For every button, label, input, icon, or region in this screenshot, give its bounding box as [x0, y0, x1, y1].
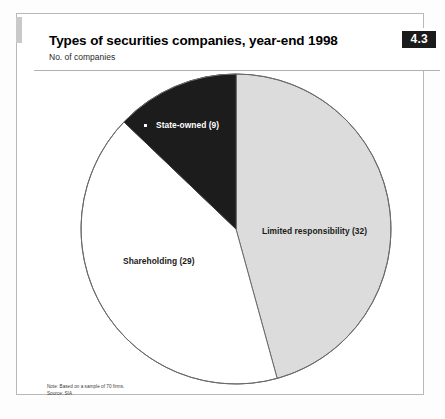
- pie-label-state-owned: State-owned (9): [156, 120, 219, 130]
- footnote-note: Note: Based on a sample of 70 firms.: [47, 383, 124, 390]
- figure-title: Types of securities companies, year-end …: [49, 33, 338, 48]
- figure-header: Types of securities companies, year-end …: [34, 28, 440, 71]
- figure-subtitle: No. of companies: [49, 52, 115, 62]
- figure-footnote: Note: Based on a sample of 70 firms. Sou…: [47, 383, 124, 397]
- state-owned-bullet-icon: [144, 124, 147, 127]
- pie-chart-plot-area: Limited responsibility (32) Shareholding…: [34, 72, 440, 408]
- pie-chart-svg: [34, 72, 440, 408]
- pie-label-limited-responsibility: Limited responsibility (32): [262, 226, 367, 236]
- figure-left-tab: [16, 17, 22, 43]
- figure-number-badge: 4.3: [402, 31, 436, 48]
- footnote-source: Source: SIA: [47, 390, 124, 397]
- pie-label-shareholding: Shareholding (29): [123, 256, 195, 266]
- figure-frame: Types of securities companies, year-end …: [16, 13, 424, 395]
